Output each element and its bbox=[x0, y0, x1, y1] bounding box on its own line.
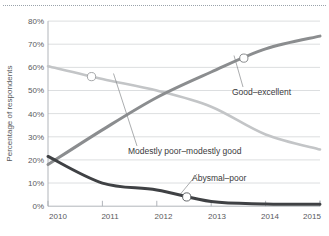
series-layer bbox=[48, 36, 320, 204]
annotation-good-excellent: Good–excellent bbox=[232, 87, 292, 97]
y-axis-tick-labels: 80% 70% 60% 50% 40% 30% 20% 10% 0% bbox=[28, 17, 44, 211]
x-tick-label: 2013 bbox=[208, 212, 226, 221]
marker-good-excellent bbox=[240, 54, 248, 62]
y-tick-label: 60% bbox=[28, 63, 44, 72]
marker-abysmal-poor bbox=[183, 193, 191, 201]
y-tick-label: 10% bbox=[28, 179, 44, 188]
annotation-modestly: Modestly poor–modestly good bbox=[128, 146, 242, 156]
y-axis-title: Percentage of respondents bbox=[5, 66, 14, 162]
marker-modestly-poor-modestly-good bbox=[87, 73, 95, 81]
line-chart: 80% 70% 60% 50% 40% 30% 20% 10% 0% Perce… bbox=[0, 0, 329, 236]
y-tick-label: 80% bbox=[28, 17, 44, 26]
x-tick-label: 2014 bbox=[261, 212, 279, 221]
y-tick-label: 70% bbox=[28, 40, 44, 49]
annotation-abysmal-poor: Abysmal–poor bbox=[192, 173, 247, 183]
y-tick-label: 40% bbox=[28, 110, 44, 119]
y-tick-label: 30% bbox=[28, 133, 44, 142]
x-tick-label: 2015 bbox=[303, 212, 321, 221]
chart-screenshot: 80% 70% 60% 50% 40% 30% 20% 10% 0% Perce… bbox=[0, 0, 329, 236]
x-tick-label: 2011 bbox=[101, 212, 119, 221]
y-tick-label: 20% bbox=[28, 156, 44, 165]
x-tick-label: 2010 bbox=[49, 212, 67, 221]
x-tick-label: 2012 bbox=[155, 212, 173, 221]
x-axis-tick-labels: 2010 2011 2012 2013 2014 2015 bbox=[49, 212, 321, 221]
y-tick-label: 50% bbox=[28, 86, 44, 95]
y-tick-label: 0% bbox=[32, 202, 44, 211]
